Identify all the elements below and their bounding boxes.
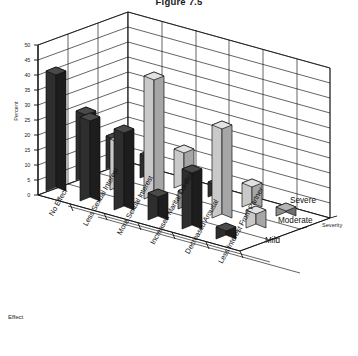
- z-axis-label: Severity: [322, 222, 342, 228]
- chart-canvas: [0, 0, 358, 356]
- chart-root: Figure 7.5: [0, 0, 358, 356]
- plot-area: 0 5 10 15 20 25 30 35 40 45 50 Percent E…: [0, 0, 358, 356]
- y-tick-10: 10: [14, 162, 30, 168]
- y-tick-0: 0: [14, 192, 30, 198]
- bar-mild-no-effect: [46, 67, 66, 191]
- bar-mild-more-sexual-interest: [114, 125, 134, 210]
- y-tick-45: 45: [14, 57, 30, 63]
- y-tick-5: 5: [14, 177, 30, 183]
- x-axis-label: Effect: [8, 314, 23, 320]
- y-tick-50: 50: [14, 42, 30, 48]
- severity-label-moderate: Moderate: [278, 216, 313, 225]
- bar-mild-less-sexual-interest: [80, 113, 100, 201]
- y-axis-label: Percent: [13, 89, 19, 133]
- y-tick-15: 15: [14, 147, 30, 153]
- severity-label-severe: Severe: [290, 196, 316, 205]
- y-axis: [34, 45, 38, 195]
- severity-label-mild: Mild: [265, 236, 280, 245]
- y-tick-40: 40: [14, 72, 30, 78]
